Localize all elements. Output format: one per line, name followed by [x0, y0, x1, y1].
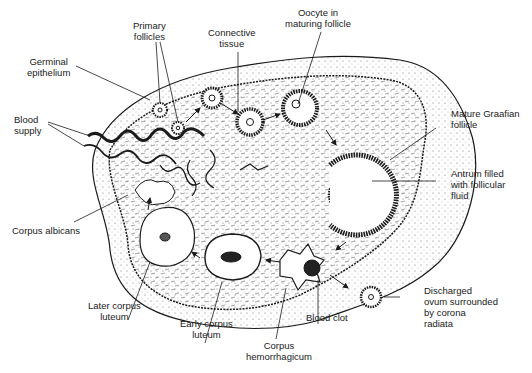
label-antrum: Antrum filled with follicular fluid: [451, 168, 505, 201]
label-corpus-albicans: Corpus albicans: [12, 225, 80, 236]
label-corpus-hemorrhagicum: Corpus hemorrhagicum: [246, 340, 312, 362]
label-blood-clot: Blood clot: [306, 312, 348, 323]
label-connective-tissue: Connective tissue: [208, 27, 256, 49]
label-germinal-epithelium: Germinal epithelium: [27, 56, 70, 78]
label-primary-follicles: Primary follicles: [133, 20, 166, 42]
label-discharged-ovum: Discharged ovum surrounded by corona rad…: [424, 285, 498, 329]
label-early-corpus-luteum: Early corpus luteum: [180, 318, 233, 340]
label-blood-supply: Blood supply: [14, 114, 41, 136]
label-later-corpus-luteum: Later corpus luteum: [88, 300, 141, 322]
ovary-diagram: Primary follicles Connective tissue Oocy…: [0, 0, 532, 373]
label-oocyte-maturing-follicle: Oocyte in maturing follicle: [285, 7, 351, 29]
label-mature-graafian-follicle: Mature Graafian follicle: [451, 108, 520, 130]
